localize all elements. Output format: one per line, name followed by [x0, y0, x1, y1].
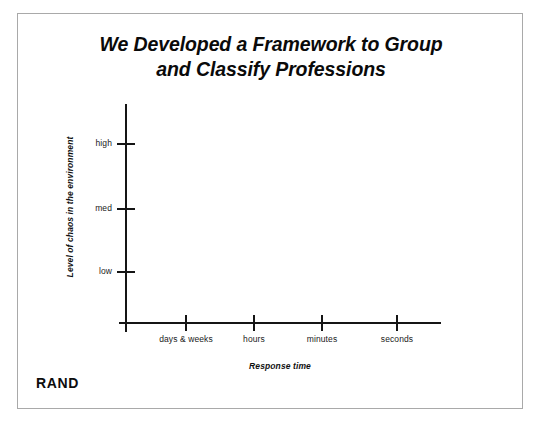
- x-tick-mark-seconds: [396, 315, 398, 331]
- x-tick-label-hours: hours: [243, 334, 265, 344]
- y-axis-title: Level of chaos in the environment: [65, 117, 75, 297]
- framework-chart: high med low days & weeks hours minutes …: [18, 14, 523, 409]
- y-tick-label-high-wrap: high: [44, 138, 112, 150]
- x-tick-mark-hours: [253, 315, 255, 331]
- y-tick-label-med-wrap: med: [44, 203, 112, 215]
- x-tick-mark-minutes: [321, 315, 323, 331]
- y-axis-line: [125, 104, 127, 332]
- x-tick-mark-days-weeks: [185, 315, 187, 331]
- x-tick-label-minutes: minutes: [307, 334, 337, 344]
- y-tick-label-low-wrap: low: [44, 266, 112, 278]
- x-tick-label-days-weeks: days & weeks: [159, 334, 213, 344]
- x-axis-line: [119, 322, 441, 324]
- y-tick-mark-med: [117, 208, 135, 210]
- x-axis-title: Response time: [119, 361, 441, 371]
- x-tick-label-seconds: seconds: [381, 334, 413, 344]
- slide-canvas: We Developed a Framework to Group and Cl…: [17, 13, 523, 409]
- y-tick-mark-low: [117, 271, 135, 273]
- y-tick-mark-high: [117, 143, 135, 145]
- rand-logo: RAND: [36, 375, 79, 391]
